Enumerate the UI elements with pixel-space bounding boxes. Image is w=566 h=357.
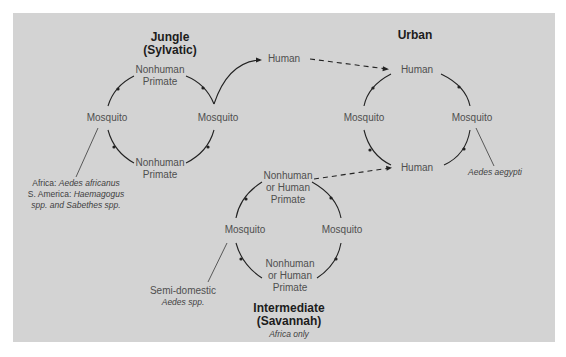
arrowhead (383, 66, 390, 71)
urban-title: Urban (398, 29, 433, 42)
human-to-urban-dashed-arrow (310, 59, 387, 69)
intermediate-subtitle: Africa only (269, 329, 309, 340)
intermediate-arc-top-left (236, 182, 262, 218)
arrowhead (386, 166, 392, 171)
intermediate-arc-bottom-right (317, 243, 341, 278)
urban-arc-bottom-right (444, 130, 470, 165)
jungle-arc-bottom-left (108, 130, 134, 163)
urban-right-vector: Mosquito (452, 112, 493, 124)
jungle-to-human-arrow (214, 60, 260, 104)
intermediate-left-vector: Mosquito (225, 224, 266, 236)
urban-top-host: Human (401, 64, 433, 76)
urban-arc-top-left (364, 74, 391, 106)
jungle-note-pointer (76, 128, 98, 177)
intermediate-arc-bottom-left (236, 243, 262, 278)
intermediate-arc-top-right (312, 182, 341, 218)
intermediate-bottom-host: Nonhuman or Human Primate (266, 258, 315, 294)
intermediate-note-pointer (208, 243, 227, 282)
intermediate-top-host: Nonhuman or Human Primate (264, 170, 313, 206)
intermediate-right-vector: Mosquito (322, 224, 363, 236)
urban-arc-top-right (441, 74, 470, 106)
intermediate-title: Intermediate (Savannah) (253, 302, 324, 328)
jungle-title: Jungle (Sylvatic) (143, 31, 196, 57)
jungle-arc-top-left (108, 76, 134, 106)
intermediate-to-urban-dashed-arrow (314, 168, 390, 179)
urban-left-vector: Mosquito (344, 112, 385, 124)
jungle-vector-species-note: Africa: Aedes africanus S. America: Haem… (28, 178, 124, 211)
urban-note-pointer (476, 128, 494, 166)
jungle-right-vector: Mosquito (198, 112, 239, 124)
bridge-human: Human (268, 53, 300, 65)
arrowhead (256, 58, 262, 63)
jungle-arc-top-right (186, 76, 214, 104)
jungle-top-host: Nonhuman Primate (136, 64, 185, 88)
urban-arc-bottom-left (364, 130, 391, 165)
jungle-left-vector: Mosquito (87, 112, 128, 124)
intermediate-vector-species-note: Semi-domestic Aedes spp. (150, 285, 216, 308)
jungle-bottom-host: Nonhuman Primate (136, 157, 185, 181)
urban-vector-species-note: Aedes aegypti (468, 167, 522, 178)
urban-bottom-host: Human (401, 162, 433, 174)
jungle-arc-bottom-right (186, 130, 214, 163)
